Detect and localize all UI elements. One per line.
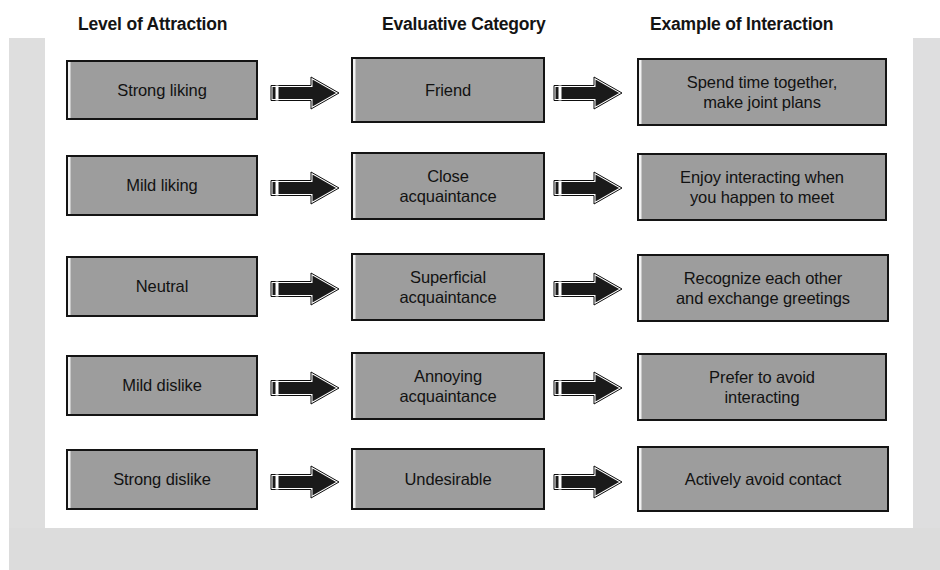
node-evaluative-category: Undesirable bbox=[351, 448, 545, 510]
right-block-arrow-icon bbox=[551, 74, 625, 112]
node-label: Annoyingacquaintance bbox=[394, 366, 503, 406]
node-example-of-interaction: Prefer to avoidinteracting bbox=[637, 353, 887, 421]
node-label: Mild liking bbox=[120, 175, 203, 195]
node-label: Neutral bbox=[130, 276, 195, 296]
right-block-arrow-icon bbox=[268, 270, 342, 308]
node-label: Strong dislike bbox=[107, 469, 217, 489]
node-example-of-interaction: Actively avoid contact bbox=[637, 446, 889, 512]
node-label: Actively avoid contact bbox=[679, 469, 847, 489]
node-level-of-attraction: Neutral bbox=[66, 256, 258, 317]
right-block-arrow-icon bbox=[268, 74, 342, 112]
node-evaluative-category: Closeacquaintance bbox=[351, 152, 545, 220]
node-example-of-interaction: Recognize each otherand exchange greetin… bbox=[637, 254, 889, 322]
right-block-arrow-icon bbox=[551, 169, 625, 207]
right-block-arrow-icon bbox=[268, 463, 342, 501]
node-label: Recognize each otherand exchange greetin… bbox=[670, 268, 856, 308]
node-evaluative-category: Friend bbox=[351, 57, 545, 123]
attraction-flow-diagram: Level of Attraction Evaluative Category … bbox=[0, 0, 940, 570]
node-label: Enjoy interacting whenyou happen to meet bbox=[674, 167, 850, 207]
node-label: Spend time together,make joint plans bbox=[681, 72, 843, 112]
node-label: Superficialacquaintance bbox=[394, 267, 503, 307]
right-block-arrow-icon bbox=[268, 169, 342, 207]
node-level-of-attraction: Mild liking bbox=[66, 155, 258, 216]
node-example-of-interaction: Enjoy interacting whenyou happen to meet bbox=[637, 153, 887, 221]
node-evaluative-category: Superficialacquaintance bbox=[351, 253, 545, 321]
node-example-of-interaction: Spend time together,make joint plans bbox=[637, 58, 887, 126]
node-label: Closeacquaintance bbox=[394, 166, 503, 206]
column-header-example-of-interaction: Example of Interaction bbox=[650, 14, 833, 35]
column-header-level-of-attraction: Level of Attraction bbox=[78, 14, 227, 35]
node-level-of-attraction: Strong liking bbox=[66, 60, 258, 120]
node-level-of-attraction: Mild dislike bbox=[66, 355, 258, 416]
right-block-arrow-icon bbox=[551, 463, 625, 501]
right-block-arrow-icon bbox=[268, 369, 342, 407]
node-label: Mild dislike bbox=[116, 375, 208, 395]
column-header-evaluative-category: Evaluative Category bbox=[382, 14, 546, 35]
node-label: Undesirable bbox=[399, 469, 498, 489]
node-evaluative-category: Annoyingacquaintance bbox=[351, 352, 545, 420]
node-level-of-attraction: Strong dislike bbox=[66, 449, 258, 510]
node-label: Friend bbox=[419, 80, 477, 100]
right-block-arrow-icon bbox=[551, 270, 625, 308]
node-label: Prefer to avoidinteracting bbox=[703, 367, 821, 407]
node-label: Strong liking bbox=[111, 80, 213, 100]
right-block-arrow-icon bbox=[551, 369, 625, 407]
